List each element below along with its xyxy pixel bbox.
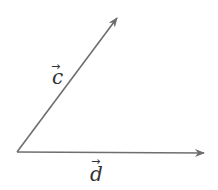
arrow-over-d-icon: → (91, 155, 100, 168)
arrow-over-c-icon: → (51, 60, 60, 73)
vector-diagram: c → d → (0, 0, 218, 190)
vector-c-label: c → (51, 60, 63, 89)
vector-c-line (17, 18, 117, 152)
vector-d-label: d → (90, 155, 103, 186)
vector-d-line (17, 152, 204, 153)
